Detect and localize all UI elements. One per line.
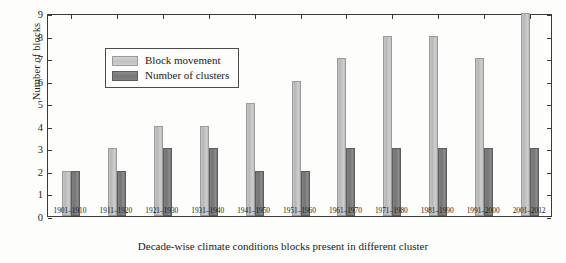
bar-block-movement	[292, 81, 301, 216]
x-tick-label: 1941–1950	[237, 206, 270, 215]
bar-group	[62, 15, 80, 216]
bar-block-movement	[521, 13, 530, 216]
x-axis-title: Decade-wise climate conditions blocks pr…	[0, 240, 566, 252]
y-tick-label: 5	[38, 100, 43, 111]
x-tick-label: 1991–2000	[467, 206, 500, 215]
x-tick-label: 2001–2012	[513, 206, 546, 215]
x-tick-label: 1921–1930	[145, 206, 178, 215]
bar-series-container	[48, 15, 551, 216]
bar-block-movement	[429, 36, 438, 216]
bar-block-movement	[154, 126, 163, 216]
bar-group	[429, 15, 447, 216]
x-tick-label: 1961–1970	[329, 206, 362, 215]
bar-group	[475, 15, 493, 216]
bar-chart-figure: Number of blocks 0123456789 Block moveme…	[0, 0, 566, 263]
bar-block-movement	[383, 36, 392, 216]
bar-group	[383, 15, 401, 216]
x-tick-label: 1911–1920	[100, 206, 133, 215]
bar-group	[521, 15, 539, 216]
bar-group	[337, 15, 355, 216]
bar-block-movement	[475, 58, 484, 216]
y-tick-label: 7	[38, 55, 43, 66]
y-axis-title: Number of blocks	[31, 0, 42, 142]
y-tick-mark	[547, 218, 551, 219]
y-tick-label: 8	[38, 32, 43, 43]
bar-group	[108, 15, 126, 216]
y-tick-label: 6	[38, 77, 43, 88]
bar-block-movement	[337, 58, 346, 216]
bar-block-movement	[246, 103, 255, 216]
bar-group	[246, 15, 264, 216]
legend-swatch-number-of-clusters	[112, 71, 138, 81]
x-tick-label: 1901–1910	[54, 206, 87, 215]
legend-swatch-block-movement	[112, 56, 138, 66]
y-tick-label: 0	[38, 213, 43, 224]
x-tick-label: 1971–1980	[375, 206, 408, 215]
x-tick-label: 1981–1990	[421, 206, 454, 215]
x-tick-label: 1931–1940	[191, 206, 224, 215]
legend-item-block-movement: Block movement	[112, 53, 229, 68]
legend-item-number-of-clusters: Number of clusters	[112, 68, 229, 83]
y-tick-label: 4	[38, 123, 43, 134]
plot-area: 0123456789 Block movement Number of clus…	[47, 14, 552, 217]
bar-block-movement	[200, 126, 209, 216]
y-tick-label: 3	[38, 145, 43, 156]
x-tick-label: 1951–1960	[283, 206, 316, 215]
bar-group	[292, 15, 310, 216]
y-tick-label: 2	[38, 168, 43, 179]
bar-group	[154, 15, 172, 216]
bar-group	[200, 15, 218, 216]
y-tick-label: 9	[38, 10, 43, 21]
legend-label-number-of-clusters: Number of clusters	[145, 70, 229, 81]
legend-label-block-movement: Block movement	[145, 55, 220, 66]
y-tick-mark	[48, 218, 52, 219]
chart-legend: Block movement Number of clusters	[105, 48, 239, 88]
y-tick-label: 1	[38, 190, 43, 201]
